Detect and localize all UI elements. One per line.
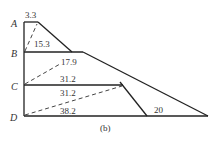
inner-slope-line <box>120 82 147 116</box>
value-b-level: 17.9 <box>61 57 77 67</box>
figure-caption: (b) <box>100 123 111 133</box>
point-a-label: A <box>10 18 18 29</box>
main-slope-line <box>83 52 208 116</box>
value-d-diag: 38.2 <box>60 106 76 116</box>
diagram: A B C D 3.3 15.3 17.9 31.2 31.2 38.2 20 … <box>0 0 220 146</box>
value-right-base: 20 <box>154 105 164 115</box>
point-d-label: D <box>9 112 18 123</box>
value-ab-diag: 15.3 <box>34 39 50 49</box>
value-c-lower: 31.2 <box>60 88 76 98</box>
dashed-line-c-b <box>25 64 60 84</box>
point-c-label: C <box>11 81 18 92</box>
value-c-upper: 31.2 <box>60 74 76 84</box>
value-top-width: 3.3 <box>25 10 37 20</box>
point-b-label: B <box>11 48 17 59</box>
